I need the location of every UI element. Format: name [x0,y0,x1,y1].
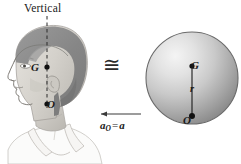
sphere-point-g-label: G [191,60,199,71]
acceleration-label: aO=a [100,120,125,133]
acceleration-value: a [119,119,125,131]
acceleration-arrow [101,111,141,116]
sphere-radius-label: r [190,84,194,95]
congruent-symbol: ≅ [103,55,121,76]
head-point-g-marker [44,64,49,69]
sphere-point-o-label: O [183,115,191,126]
acceleration-equals: = [111,119,119,131]
mechanics-figure: Vertical G O ≅ aO=a G r O [0,0,241,164]
sphere-illustration [146,32,238,124]
vertical-axis-label: Vertical [24,3,61,15]
pupil [23,65,26,68]
head-illustration [8,24,102,164]
head-point-g-label: G [31,62,39,73]
figure-canvas [0,0,241,164]
arrow-head [101,111,107,116]
head-point-o-label: O [47,99,55,110]
